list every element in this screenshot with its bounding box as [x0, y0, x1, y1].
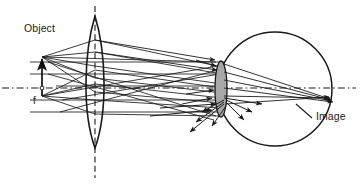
eye-crystalline-lens	[215, 61, 227, 117]
image-label: Image	[316, 110, 346, 122]
axes-group	[2, 6, 356, 178]
ray-bundle-from-object-tip	[42, 40, 222, 103]
upper-incoming-ray-group	[95, 40, 217, 70]
object-label: Object	[24, 22, 55, 34]
retina-convergence-group	[224, 64, 333, 104]
image-label-leader	[296, 104, 312, 118]
diagram-canvas: Object f Image	[0, 0, 360, 186]
focal-length-label: f	[33, 95, 36, 106]
eye-lens-group	[215, 61, 227, 117]
focal-point-marker	[40, 86, 44, 90]
object-arrow-group	[40, 59, 44, 96]
